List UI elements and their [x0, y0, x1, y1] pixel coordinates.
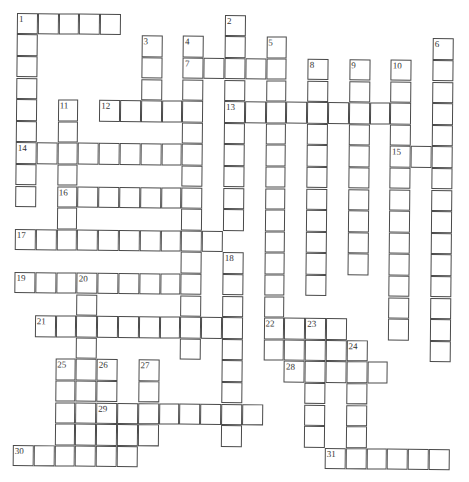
crossword-cell[interactable]: [58, 13, 79, 35]
crossword-cell[interactable]: [390, 103, 411, 125]
crossword-cell[interactable]: [389, 211, 410, 233]
crossword-cell[interactable]: [76, 316, 97, 338]
crossword-cell[interactable]: [57, 207, 78, 229]
crossword-cell[interactable]: [140, 143, 161, 165]
crossword-cell[interactable]: [54, 423, 75, 445]
crossword-cell[interactable]: [432, 60, 453, 82]
crossword-cell[interactable]: [266, 58, 287, 80]
crossword-cell[interactable]: [202, 230, 223, 252]
crossword-cell[interactable]: 19: [14, 272, 35, 294]
crossword-cell[interactable]: [266, 101, 287, 123]
crossword-cell[interactable]: [222, 295, 243, 317]
crossword-cell[interactable]: [139, 273, 160, 295]
crossword-cell[interactable]: 4: [183, 36, 204, 58]
crossword-cell[interactable]: [180, 338, 201, 360]
crossword-cell[interactable]: [326, 340, 347, 362]
crossword-cell[interactable]: [35, 272, 56, 294]
crossword-cell[interactable]: [33, 445, 54, 467]
crossword-cell[interactable]: [265, 209, 286, 231]
crossword-cell[interactable]: 29: [96, 402, 117, 424]
crossword-cell[interactable]: [432, 103, 453, 125]
crossword-cell[interactable]: [389, 275, 410, 297]
crossword-cell[interactable]: 8: [308, 59, 329, 81]
crossword-cell[interactable]: [179, 403, 200, 425]
crossword-cell[interactable]: 27: [138, 359, 159, 381]
crossword-cell[interactable]: [120, 100, 141, 122]
crossword-cell[interactable]: [224, 144, 245, 166]
crossword-cell[interactable]: [306, 188, 327, 210]
crossword-cell[interactable]: [15, 164, 36, 186]
crossword-cell[interactable]: [224, 123, 245, 145]
crossword-cell[interactable]: [265, 145, 286, 167]
crossword-cell[interactable]: [182, 187, 203, 209]
crossword-cell[interactable]: [204, 58, 225, 80]
crossword-cell[interactable]: [76, 359, 97, 381]
crossword-cell[interactable]: [245, 58, 266, 80]
crossword-cell[interactable]: [57, 121, 78, 143]
crossword-cell[interactable]: [431, 211, 452, 233]
crossword-cell[interactable]: [140, 187, 161, 209]
crossword-cell[interactable]: [346, 383, 367, 405]
crossword-cell[interactable]: [304, 426, 325, 448]
crossword-cell[interactable]: [307, 145, 328, 167]
crossword-cell[interactable]: [430, 297, 451, 319]
crossword-cell[interactable]: [138, 403, 159, 425]
crossword-cell[interactable]: 10: [391, 59, 412, 81]
crossword-cell[interactable]: [264, 253, 285, 275]
crossword-cell[interactable]: [430, 276, 451, 298]
crossword-cell[interactable]: [346, 405, 367, 427]
crossword-cell[interactable]: [75, 445, 96, 467]
crossword-cell[interactable]: 22: [263, 317, 284, 339]
crossword-cell[interactable]: [119, 186, 140, 208]
crossword-cell[interactable]: [307, 102, 328, 124]
crossword-cell[interactable]: [54, 445, 75, 467]
crossword-cell[interactable]: [432, 125, 453, 147]
crossword-cell[interactable]: [160, 230, 181, 252]
crossword-cell[interactable]: [390, 167, 411, 189]
crossword-cell[interactable]: 26: [97, 359, 118, 381]
crossword-cell[interactable]: [180, 295, 201, 317]
crossword-cell[interactable]: [264, 296, 285, 318]
crossword-cell[interactable]: [432, 146, 453, 168]
crossword-cell[interactable]: [390, 189, 411, 211]
crossword-cell[interactable]: 3: [141, 35, 162, 57]
crossword-cell[interactable]: [16, 121, 37, 143]
crossword-cell[interactable]: [140, 230, 161, 252]
crossword-cell[interactable]: [161, 144, 182, 166]
crossword-cell[interactable]: [181, 273, 202, 295]
crossword-cell[interactable]: [224, 58, 245, 80]
crossword-cell[interactable]: [346, 361, 367, 383]
crossword-cell[interactable]: 5: [266, 37, 287, 59]
crossword-cell[interactable]: [346, 426, 367, 448]
crossword-cell[interactable]: [79, 13, 100, 35]
crossword-cell[interactable]: [348, 167, 369, 189]
crossword-cell[interactable]: [141, 57, 162, 79]
crossword-cell[interactable]: [429, 449, 450, 471]
crossword-cell[interactable]: [181, 230, 202, 252]
crossword-cell[interactable]: [307, 123, 328, 145]
crossword-cell[interactable]: [55, 380, 76, 402]
crossword-cell[interactable]: [159, 316, 180, 338]
crossword-cell[interactable]: [38, 13, 59, 35]
crossword-cell[interactable]: [56, 229, 77, 251]
crossword-cell[interactable]: [367, 362, 388, 384]
crossword-cell[interactable]: [345, 448, 366, 470]
crossword-cell[interactable]: 28: [284, 361, 305, 383]
crossword-cell[interactable]: [348, 145, 369, 167]
crossword-cell[interactable]: [266, 80, 287, 102]
crossword-cell[interactable]: 6: [433, 38, 454, 60]
crossword-cell[interactable]: [159, 403, 180, 425]
crossword-cell[interactable]: [15, 185, 36, 207]
crossword-cell[interactable]: [430, 341, 451, 363]
crossword-cell[interactable]: [223, 166, 244, 188]
crossword-cell[interactable]: 11: [58, 99, 79, 121]
crossword-cell[interactable]: [119, 230, 140, 252]
crossword-cell[interactable]: 15: [390, 146, 411, 168]
crossword-cell[interactable]: 13: [224, 101, 245, 123]
crossword-cell[interactable]: 14: [16, 142, 37, 164]
crossword-cell[interactable]: [304, 404, 325, 426]
crossword-cell[interactable]: [162, 100, 183, 122]
crossword-cell[interactable]: [349, 124, 370, 146]
crossword-cell[interactable]: [284, 318, 305, 340]
crossword-cell[interactable]: [265, 166, 286, 188]
